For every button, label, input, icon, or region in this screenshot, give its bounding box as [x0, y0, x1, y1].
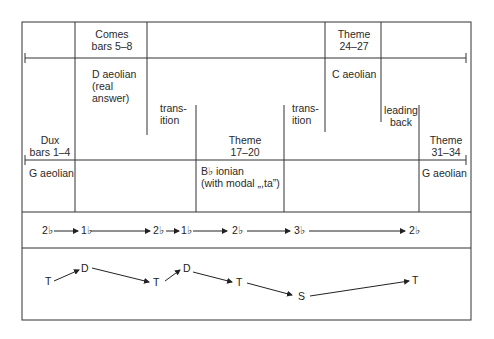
comes-mode: D aeolian (real answer): [92, 68, 136, 104]
degree-2: 2♭: [153, 224, 164, 236]
function-2: T: [153, 276, 159, 288]
theme-24-label: Theme 24–27: [330, 28, 378, 52]
function-1: D: [81, 262, 89, 274]
dux-label: Dux bars 1–4: [26, 134, 74, 158]
function-3: D: [183, 262, 191, 274]
degree-3: 1♭: [181, 224, 192, 236]
degree-4: 2♭: [232, 224, 243, 236]
comes-label: Comes bars 5–8: [80, 28, 144, 52]
theme-24-mode: C aeolian: [332, 68, 376, 80]
degree-1: 1♭: [81, 224, 92, 236]
transition-2-label: trans- ition: [292, 102, 319, 126]
theme-31-label: Theme 31–34: [422, 134, 470, 158]
degree-5: 3♭: [294, 224, 305, 236]
function-4: T: [236, 276, 242, 288]
theme-31-mode: G aeolian: [422, 167, 467, 179]
function-0: T: [45, 275, 51, 287]
degree-0: 2♭: [42, 224, 53, 236]
comes-title: Comes: [80, 28, 144, 40]
dux-mode: G aeolian: [29, 167, 74, 179]
theme-17-label: Theme 17–20: [215, 134, 275, 158]
leading-back-label: leading back: [383, 104, 419, 128]
function-5: S: [298, 290, 305, 302]
comes-bars: bars 5–8: [80, 40, 144, 52]
degree-6: 2♭: [409, 224, 420, 236]
theme-17-mode: B♭ ionian (with modal „,ta”): [201, 165, 280, 189]
function-6: T: [412, 274, 418, 286]
transition-1-label: trans- ition: [160, 102, 187, 126]
